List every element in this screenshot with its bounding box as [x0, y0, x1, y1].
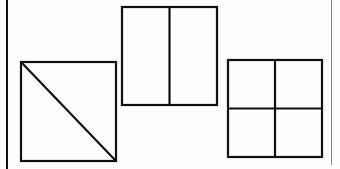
figure-canvas	[0, 0, 340, 169]
shapes-group	[21, 7, 322, 161]
rectangle-halves	[122, 7, 217, 105]
square-diagonal	[21, 62, 116, 161]
square-diagonal-diagonal-line	[21, 62, 116, 161]
shapes-drawing	[0, 0, 340, 169]
square-quarters	[228, 60, 322, 157]
